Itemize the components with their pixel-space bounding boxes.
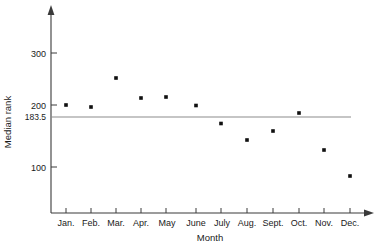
data-point-mar [114,76,118,80]
y-axis-title: Median rank [2,96,13,149]
y-axis-arrowhead [48,5,55,15]
data-point-aug [245,138,249,142]
data-point-dec [348,174,352,178]
chart-page: 300 200 100 183.5 Jan. Feb. Mar. [0,0,378,249]
x-tick-label-jan: Jan. [57,218,74,228]
data-point-apr [139,96,143,100]
y-tick-label-200: 200 [31,101,46,111]
x-tick-marks [66,208,350,213]
y-tick-marks [51,53,57,167]
data-point-sept [271,129,275,133]
x-tick-label-nov: Nov. [315,218,333,228]
data-points [64,76,352,178]
x-tick-label-oct: Oct. [291,218,308,228]
data-point-feb [89,105,93,109]
y-axis [48,5,55,213]
y-tick-label-100: 100 [31,163,46,173]
x-tick-label-may: May [158,218,176,228]
x-tick-label-aug: Aug. [238,218,257,228]
x-tick-label-sept: Sept. [262,218,283,228]
x-axis-arrowhead [364,210,374,217]
x-axis-title: Month [197,232,223,243]
scatter-chart: 300 200 100 183.5 Jan. Feb. Mar. [0,0,378,249]
x-tick-labels: Jan. Feb. Mar. Apr. May June July Aug. S… [57,218,359,228]
x-tick-label-feb: Feb. [82,218,100,228]
data-point-july [219,122,223,126]
data-point-jan [64,103,68,107]
data-point-oct [297,111,301,115]
x-axis [51,210,374,217]
y-tick-label-reference: 183.5 [25,112,47,122]
x-tick-label-dec: Dec. [341,218,360,228]
x-tick-label-apr: Apr. [133,218,149,228]
x-tick-label-july: July [214,218,231,228]
y-tick-label-300: 300 [31,49,46,59]
y-tick-labels: 300 200 100 183.5 [25,49,47,173]
data-point-may [164,95,168,99]
data-point-june [194,104,198,108]
x-tick-label-mar: Mar. [107,218,125,228]
x-tick-label-june: June [186,218,206,228]
data-point-nov [322,148,326,152]
